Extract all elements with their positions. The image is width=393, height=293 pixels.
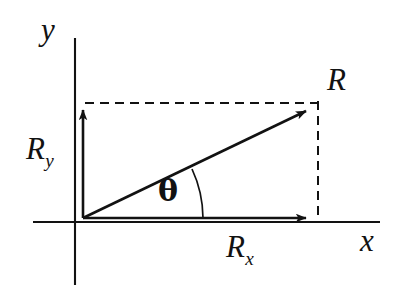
x-axis-label: x [360, 225, 374, 256]
y-component-label-subscript: y [45, 150, 54, 171]
x-component-label: Rx [226, 231, 253, 262]
x-component-label-base: R [226, 229, 245, 264]
resultant-vector [83, 111, 306, 218]
vector-diagram: y x R Ry Rx θ [0, 0, 393, 293]
angle-arc [192, 169, 203, 218]
y-component-label-base: R [26, 131, 45, 166]
theta-angle-label: θ [158, 176, 178, 206]
x-component-label-subscript: x [245, 248, 254, 269]
resultant-vector-label: R [327, 64, 346, 95]
y-axis-label: y [41, 14, 55, 45]
vector-diagram-canvas [0, 0, 393, 293]
y-component-label: Ry [26, 133, 53, 164]
